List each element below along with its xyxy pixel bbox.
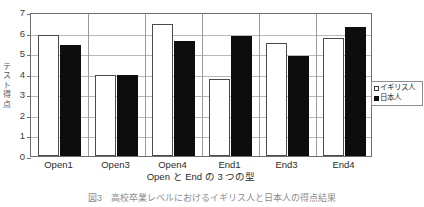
bar-end1-series2 (231, 36, 252, 156)
category-separator (88, 14, 89, 156)
bar-open3-series1 (95, 75, 116, 156)
bar-series-container (31, 14, 371, 156)
bar-end3-series1 (266, 43, 287, 156)
bar-open4-series2 (174, 41, 195, 156)
y-axis-tick-labels: 01234567 (12, 0, 28, 207)
y-axis-tick-label: 1 (20, 132, 25, 142)
y-axis-tick-label: 4 (20, 70, 25, 80)
y-axis-tick-label: 7 (20, 8, 25, 18)
bar-end3-series2 (288, 56, 309, 156)
category-separator (259, 14, 260, 156)
category-separator (316, 14, 317, 156)
x-axis-tick-label-end1: End1 (218, 159, 240, 170)
bar-open1-series1 (38, 35, 59, 156)
bar-end1-series1 (209, 79, 230, 156)
plot-area (30, 13, 372, 157)
y-axis-tick-label: 0 (20, 152, 25, 162)
figure: テ ス ト 得 点 01234567 Open1Open3Open4End1En… (0, 0, 424, 207)
legend-item-label: イギリス人 (380, 84, 415, 92)
legend-item-label: 日本人 (380, 94, 401, 102)
legend-item: イギリス人 (374, 83, 420, 93)
x-axis-title: Open と End の 3 つの型 (30, 171, 372, 182)
y-axis-tick-label: 3 (20, 91, 25, 101)
category-separator (202, 14, 203, 156)
x-axis-tick-label-open3: Open3 (101, 159, 130, 170)
legend-item: 日本人 (374, 93, 420, 103)
x-axis-tick-label-open1: Open1 (44, 159, 73, 170)
bar-open3-series2 (117, 75, 138, 156)
bar-open1-series2 (60, 45, 81, 156)
legend-swatch-white-square-icon (374, 86, 379, 91)
x-axis-tick-label-end4: End4 (332, 159, 354, 170)
category-separator (145, 14, 146, 156)
x-axis-tick-label-end3: End3 (275, 159, 297, 170)
y-axis-tick-label: 2 (20, 111, 25, 121)
bar-end4-series1 (323, 38, 344, 156)
bar-end4-series2 (345, 27, 366, 156)
figure-caption: 図3 高校卒業レベルにおけるイギリス人と日本人の得点結果 (0, 193, 424, 204)
legend: イギリス人 日本人 (371, 81, 423, 106)
y-axis-tick-label: 6 (20, 29, 25, 39)
bar-open4-series1 (152, 24, 173, 156)
y-axis-tick-label: 5 (20, 49, 25, 59)
x-axis-tick-label-open4: Open4 (158, 159, 187, 170)
legend-swatch-black-square-icon (374, 96, 379, 101)
